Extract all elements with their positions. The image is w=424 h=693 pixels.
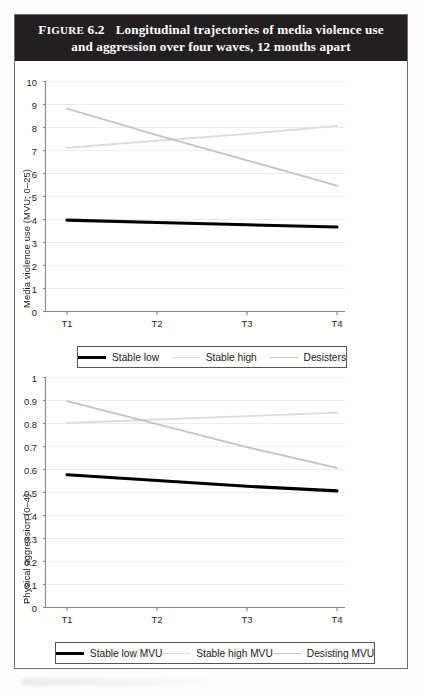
y-tick-label: 1 [15,372,37,383]
y-tick-label: 1 [15,283,37,294]
x-tick-label: T4 [332,318,343,329]
y-tick-label: 0.2 [15,556,37,567]
figure-title: FIGURE 6.2Longitudinal trajectories of m… [26,22,395,54]
y-tick-label: 5 [15,191,37,202]
plot-area-mvu [43,81,347,315]
y-tick-label: 2 [15,260,37,271]
y-tick-label: 0.3 [15,533,37,544]
figure-title-line1: Longitudinal trajectories of media viole… [116,22,384,37]
y-tick-label: 0 [15,602,37,613]
y-tick-label: 0.4 [15,510,37,521]
chart-panel-mvu: Media violence use (MVU; 0–25) 012345678… [15,63,409,353]
legend-item[interactable]: Stable low MVU [56,648,162,659]
x-tick-label: T4 [332,614,343,625]
y-tick-label: 0.5 [15,487,37,498]
scan-artifact [22,678,212,686]
legend-item[interactable]: Stable high MVU [162,648,272,659]
y-tick-label: 4 [15,214,37,225]
y-tick-label: 6 [15,168,37,179]
legend-line-swatch-icon [270,357,298,358]
legend-label: Stable low MVU [90,648,162,659]
x-tick-label: T3 [242,318,253,329]
x-tick-label: T1 [62,614,73,625]
figure-frame: FIGURE 6.2Longitudinal trajectories of m… [14,14,408,669]
legend-line-swatch-icon [172,357,200,358]
figure-label-word: FIGURE [38,24,84,36]
legend-label: Desisting MVU [307,648,374,659]
x-tick-label: T1 [62,318,73,329]
legend-label: Stable high MVU [196,648,272,659]
x-tick-label: T2 [152,318,163,329]
legend-line-swatch-icon [56,652,84,655]
chart-panel-aggression: Physical aggression (0–4) 00.10.20.30.40… [15,359,409,659]
figure-title-line2: and aggression over four waves, 12 month… [71,39,350,54]
figure-number: 6.2 [88,22,105,37]
y-tick-label: 0.7 [15,441,37,452]
y-tick-label: 7 [15,145,37,156]
plot-area-aggression [43,377,347,611]
legend-line-swatch-icon [162,653,190,654]
y-tick-label: 3 [15,237,37,248]
y-tick-label: 8 [15,122,37,133]
legend-line-swatch-icon [273,653,301,654]
x-tick-label: T3 [242,614,253,625]
y-tick-label: 10 [15,76,37,87]
y-tick-label: 0 [15,306,37,317]
legend-aggression: Stable low MVUStable high MVUDesisting M… [55,642,375,664]
y-tick-label: 0.8 [15,418,37,429]
figure-title-band: FIGURE 6.2Longitudinal trajectories of m… [15,15,407,61]
y-tick-label: 0.9 [15,395,37,406]
y-tick-label: 9 [15,99,37,110]
y-tick-label: 0.6 [15,464,37,475]
y-tick-label: 0.1 [15,579,37,590]
x-tick-label: T2 [152,614,163,625]
legend-item[interactable]: Desisting MVU [273,648,374,659]
